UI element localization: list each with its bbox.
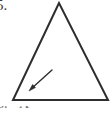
- triangle-shape: [13, 3, 108, 100]
- pointer-arrow-shaft: [32, 70, 53, 89]
- clipped-next-line: 6. A: [0, 106, 112, 114]
- clipped-text-fragment-b: A: [19, 106, 29, 111]
- pointer-arrow: [29, 70, 52, 91]
- triangle-figure-svg: [0, 0, 112, 114]
- geometry-figure-panel: 5. 6. A: [0, 0, 112, 114]
- clipped-text-fragment-a: 6.: [0, 106, 8, 111]
